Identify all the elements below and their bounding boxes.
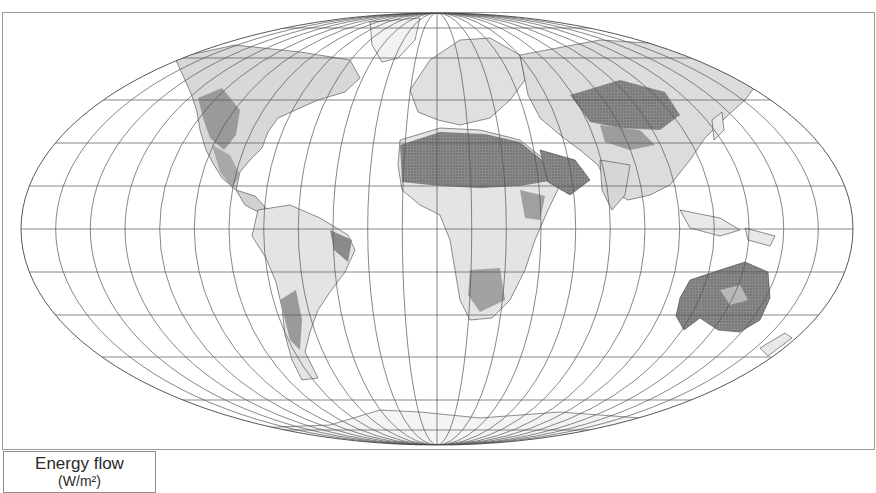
landmass-greenland	[370, 18, 420, 62]
landmass-north-america	[175, 45, 360, 190]
legend-title: Energy flow	[4, 454, 155, 474]
legend-unit: (W/m²)	[4, 473, 155, 489]
legend: Energy flow (W/m²)	[3, 451, 156, 493]
land-layer	[30, 18, 850, 460]
landmass-europe	[410, 38, 525, 125]
landmass-australia	[676, 262, 770, 332]
